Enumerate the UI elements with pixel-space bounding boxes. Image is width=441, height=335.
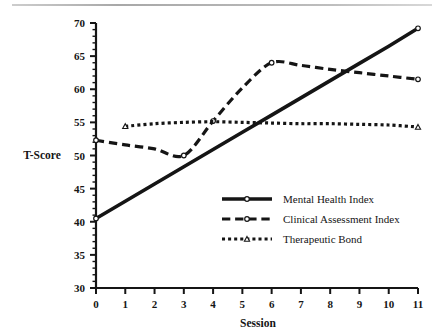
x-axis-tick-label: 1 (123, 298, 129, 310)
data-point-marker (415, 124, 420, 129)
x-axis-tick-label: 2 (152, 298, 158, 310)
data-point-marker (269, 60, 274, 65)
x-axis-tick-label: 9 (357, 298, 363, 310)
data-point-marker (416, 77, 421, 82)
data-point-marker (94, 216, 99, 221)
legend-label: Therapeutic Bond (283, 233, 363, 245)
series-dotted (123, 122, 421, 129)
legend-label: Clinical Assessment Index (283, 213, 400, 225)
data-point-marker (416, 26, 421, 31)
legend-marker-sample (245, 197, 250, 202)
x-axis-tick-label: 4 (210, 298, 216, 310)
y-axis-tick-label: 35 (74, 249, 86, 261)
y-axis-tick-label: 30 (74, 282, 86, 294)
legend-marker-sample (244, 236, 249, 241)
x-axis-tick-label: 8 (327, 298, 333, 310)
y-axis-tick-label: 45 (74, 183, 86, 195)
x-axis-tick-label: 3 (181, 298, 187, 310)
top-horizontal-rule (12, 4, 432, 6)
series-line (96, 61, 418, 156)
data-point-marker (123, 124, 128, 129)
y-axis-tick-label: 70 (74, 17, 86, 29)
series-solid (94, 26, 421, 221)
y-axis-tick-label: 50 (74, 150, 86, 162)
y-axis-tick-label: 60 (74, 83, 86, 95)
chart-figure: 30354045505560657001234567891011 Mental … (0, 0, 441, 335)
legend-marker-sample (245, 217, 250, 222)
y-axis-title: T-Score (23, 149, 61, 161)
y-axis-tick-label: 40 (74, 216, 86, 228)
data-point-marker (182, 153, 187, 158)
x-axis-tick-label: 11 (413, 298, 423, 310)
series-line (125, 122, 418, 127)
legend-label: Mental Health Index (283, 193, 375, 205)
x-axis-title: Session (240, 317, 276, 329)
series-dashed (94, 60, 421, 157)
data-point-marker (94, 138, 99, 143)
y-axis-tick-label: 55 (74, 116, 86, 128)
line-chart-plot: 30354045505560657001234567891011 Mental … (0, 0, 441, 335)
x-axis-tick-label: 10 (383, 298, 395, 310)
x-axis-tick-label: 5 (240, 298, 246, 310)
x-axis-tick-label: 0 (93, 298, 99, 310)
x-axis-tick-label: 7 (298, 298, 304, 310)
x-axis-tick-label: 6 (269, 298, 275, 310)
y-axis-tick-label: 65 (74, 50, 86, 62)
